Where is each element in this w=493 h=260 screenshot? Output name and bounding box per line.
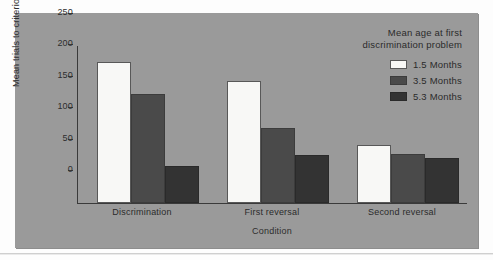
legend-item-label: 5.3 Months [413, 91, 462, 102]
bar[interactable] [261, 128, 295, 203]
bar-group [97, 46, 199, 203]
page-bottom-rule-shadow [0, 254, 493, 255]
y-axis-tick-label: 200 [25, 39, 73, 48]
legend-title-line-2: discrimination problem [282, 39, 462, 51]
legend-item-label: 1.5 Months [413, 59, 462, 70]
bar[interactable] [97, 62, 131, 203]
x-axis-title: Condition [77, 226, 467, 236]
bar[interactable] [131, 94, 165, 203]
y-axis-tick-label: 0 [25, 165, 73, 174]
legend-item[interactable]: 1.5 Months [390, 59, 462, 70]
page-background: 050100150200250 Mean trials to criterion… [0, 0, 493, 260]
legend-swatch-icon [390, 92, 407, 101]
legend-items: 1.5 Months3.5 Months5.3 Months [282, 59, 462, 102]
y-axis-tick-label: 100 [25, 102, 73, 111]
bar[interactable] [357, 145, 391, 203]
bar[interactable] [165, 166, 199, 203]
y-axis-tick-label: 50 [25, 134, 73, 143]
legend-title-line-1: Mean age at first [282, 27, 462, 39]
y-axis-tick-label: 150 [25, 71, 73, 80]
chart-panel: 050100150200250 Mean trials to criterion… [15, 13, 478, 248]
y-axis-ticks: 050100150200250 [15, 13, 73, 248]
legend-swatch-icon [390, 76, 407, 85]
x-axis-category-label: Discrimination [77, 207, 207, 217]
bar[interactable] [295, 155, 329, 203]
x-axis-category-label: Second reversal [337, 207, 467, 217]
x-axis-line [77, 203, 467, 204]
bar[interactable] [227, 81, 261, 203]
legend-item-label: 3.5 Months [413, 75, 462, 86]
y-axis-tick-label: 250 [25, 8, 73, 17]
y-axis-title: Mean trials to criterion [11, 0, 21, 87]
legend-item[interactable]: 5.3 Months [390, 91, 462, 102]
x-axis-category-label: First reversal [207, 207, 337, 217]
legend-item[interactable]: 3.5 Months [390, 75, 462, 86]
legend-title: Mean age at first discrimination problem [282, 27, 462, 51]
legend: Mean age at first discrimination problem… [282, 27, 462, 102]
legend-swatch-icon [390, 60, 407, 69]
bar[interactable] [425, 158, 459, 203]
bar[interactable] [391, 154, 425, 203]
